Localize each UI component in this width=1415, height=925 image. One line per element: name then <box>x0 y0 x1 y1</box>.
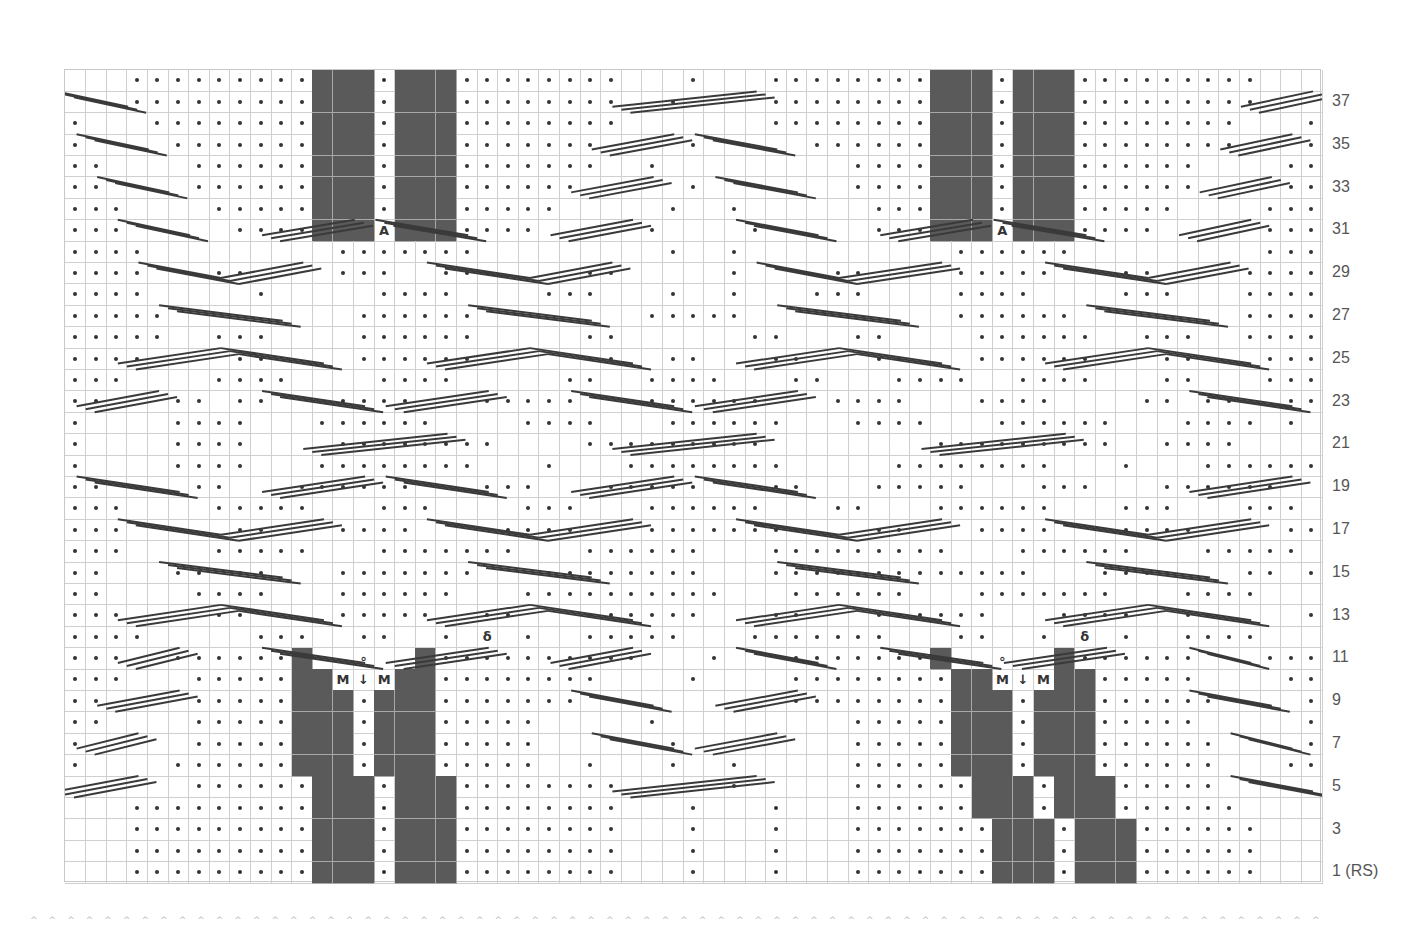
cable-cross-icon <box>736 348 857 369</box>
cable-cross-icon <box>530 605 651 626</box>
cable-cross-icon <box>921 434 1083 455</box>
cable-cross-icon <box>736 220 836 241</box>
cable-cross-icon <box>880 220 991 241</box>
footer-mark: ^ <box>179 915 187 925</box>
cable-cross-icon <box>427 605 548 626</box>
row-label: 29 <box>1332 262 1350 282</box>
row-label: 21 <box>1332 433 1350 453</box>
cable-cross-icon <box>97 177 187 198</box>
footer-mark: ^ <box>866 915 874 925</box>
footer-mark: ^ <box>457 915 465 925</box>
footer-mark: ^ <box>439 915 447 925</box>
footer-mark: ^ <box>1293 915 1301 925</box>
footer-mark: ^ <box>922 915 930 925</box>
footer-mark: ^ <box>773 915 781 925</box>
footer-mark: ^ <box>1145 915 1153 925</box>
footer-mark: ^ <box>1070 915 1078 925</box>
footer-mark: ^ <box>829 915 837 925</box>
cable-cross-icon <box>612 434 774 455</box>
cable-cross-icon <box>1189 648 1269 669</box>
footer-mark: ^ <box>513 915 521 925</box>
cable-cross-icon <box>530 348 651 369</box>
footer-mark: ^ <box>30 915 38 925</box>
cable-cross-icon <box>221 605 342 626</box>
row-label: 7 <box>1332 733 1341 753</box>
cable-cross-icon <box>571 477 692 498</box>
row-label: 33 <box>1332 177 1350 197</box>
footer-mark: ^ <box>717 915 725 925</box>
cable-cross-icon <box>1231 776 1322 797</box>
cable-cross-icon <box>221 519 342 540</box>
cable-cross-icon <box>715 177 815 198</box>
footer-mark: ^ <box>1200 915 1208 925</box>
cable-cross-icon <box>994 220 1105 241</box>
footer-mark: ^ <box>197 915 205 925</box>
cable-cross-icon <box>159 562 301 583</box>
cable-cross-icon <box>612 91 774 112</box>
cable-cross-icon <box>736 519 857 540</box>
footer-mark: ^ <box>141 915 149 925</box>
cable-cross-icon <box>736 648 836 669</box>
footer-mark: ^ <box>755 915 763 925</box>
footer-mark: ^ <box>977 915 985 925</box>
cable-cross-icon <box>736 605 857 626</box>
cable-cross-icon <box>1148 348 1269 369</box>
footer-mark: ^ <box>309 915 317 925</box>
cable-cross-icon <box>777 305 919 326</box>
cable-cross-icon <box>262 477 383 498</box>
knitting-chart-grid: AAδδ∘∘M↓MM↓M <box>64 69 1321 882</box>
cable-cross-icon <box>65 776 156 797</box>
footer-mark: ^ <box>160 915 168 925</box>
cable-cross-icon <box>118 220 208 241</box>
row-label: 27 <box>1332 305 1350 325</box>
cable-cross-icon <box>97 690 197 711</box>
footer-mark: ^ <box>1275 915 1283 925</box>
cable-cross-icon <box>592 733 692 754</box>
cable-cross-icon <box>592 134 692 155</box>
cable-cross-icon <box>839 519 960 540</box>
cable-cross-icon <box>77 477 198 498</box>
cable-cross-icon <box>695 391 816 412</box>
cable-cross-icon <box>1200 177 1290 198</box>
cable-cross-icon <box>1179 220 1269 241</box>
cable-cross-icon <box>571 690 671 711</box>
footer-mark: ^ <box>569 915 577 925</box>
cable-cross-icon <box>427 348 548 369</box>
row-label: 19 <box>1332 476 1350 496</box>
row-label: 11 <box>1332 647 1349 667</box>
cable-cross-icon <box>221 263 321 284</box>
footer-mark: ^ <box>290 915 298 925</box>
footer-mark: ^ <box>123 915 131 925</box>
footer-mark: ^ <box>364 915 372 925</box>
footer-mark: ^ <box>1219 915 1227 925</box>
footer-mark: ^ <box>550 915 558 925</box>
cable-cross-icon <box>118 348 239 369</box>
footer-mark: ^ <box>86 915 94 925</box>
footer-mark: ^ <box>903 915 911 925</box>
cable-cross-icon <box>138 263 238 284</box>
cable-cross-icon <box>1241 91 1322 112</box>
footer-mark: ^ <box>253 915 261 925</box>
cable-cross-icon <box>77 134 167 155</box>
footer-mark: ^ <box>847 915 855 925</box>
footer-mark: ^ <box>104 915 112 925</box>
footer-mark: ^ <box>1312 915 1320 925</box>
footer-mark: ^ <box>1238 915 1246 925</box>
footer-mark: ^ <box>327 915 335 925</box>
cable-cross-icon <box>695 134 795 155</box>
footer-mark: ^ <box>1163 915 1171 925</box>
row-label: 1 (RS) <box>1332 861 1378 881</box>
footer-mark: ^ <box>736 915 744 925</box>
row-label: 35 <box>1332 134 1350 154</box>
footer-mark: ^ <box>1052 915 1060 925</box>
cable-cross-icon <box>551 648 651 669</box>
cable-cross-icon <box>1189 477 1310 498</box>
cable-cross-icon <box>839 263 960 284</box>
cable-cross-icon <box>159 305 301 326</box>
cable-cross-icon <box>1004 648 1125 669</box>
cable-cross-icon <box>1086 562 1228 583</box>
cable-cross-icon <box>530 263 630 284</box>
cable-cross-icon <box>1231 733 1311 754</box>
cable-cross-icon <box>77 733 157 754</box>
footer-mark: ^ <box>1015 915 1023 925</box>
